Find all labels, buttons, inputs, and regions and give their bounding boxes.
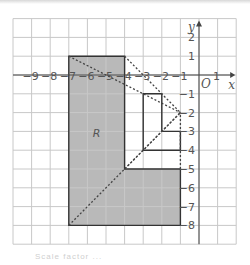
y-tick-label: −5 bbox=[179, 163, 195, 176]
x-tick-label: −4 bbox=[115, 70, 131, 83]
y-tick-label: −2 bbox=[179, 107, 195, 120]
origin-label: O bbox=[201, 77, 211, 91]
caption-text: Scale factor ... bbox=[35, 252, 102, 261]
x-tick-label: −7 bbox=[60, 70, 76, 83]
x-tick-label: −5 bbox=[97, 70, 113, 83]
y-axis-arrow-icon bbox=[196, 21, 202, 27]
x-tick-label: −3 bbox=[134, 70, 150, 83]
x-tick-label: −9 bbox=[22, 70, 38, 83]
y-tick-label: −3 bbox=[179, 125, 195, 138]
y-tick-label: 1 bbox=[188, 50, 195, 63]
y-tick-label: −6 bbox=[179, 182, 195, 195]
x-tick-label: −2 bbox=[153, 70, 169, 83]
y-tick-label: −8 bbox=[179, 219, 195, 232]
y-tick-label: −4 bbox=[179, 144, 195, 157]
coordinate-grid: −9−8−7−6−5−4−3−2−1121−1−2−3−4−5−6−7−8Oxy… bbox=[0, 0, 250, 265]
y-tick-label: −1 bbox=[179, 88, 195, 101]
x-tick-label: 1 bbox=[213, 70, 220, 83]
y-axis-label: y bbox=[187, 20, 195, 34]
x-tick-label: −6 bbox=[78, 70, 94, 83]
y-tick-label: −7 bbox=[179, 201, 195, 214]
x-tick-label: −8 bbox=[41, 70, 57, 83]
x-tick-label: −1 bbox=[171, 70, 187, 83]
shape-r-label: R bbox=[93, 127, 101, 140]
construction-line-dashed bbox=[125, 56, 181, 112]
x-axis-label: x bbox=[228, 78, 235, 92]
